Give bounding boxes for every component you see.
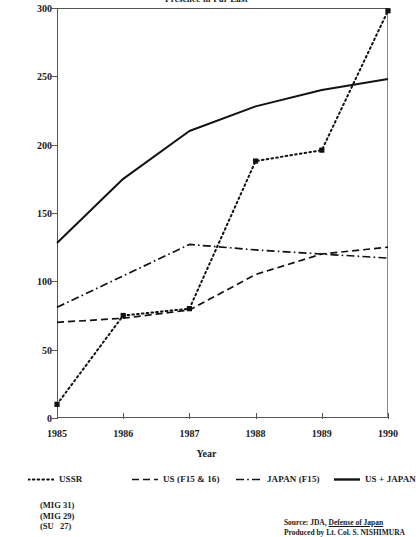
y-tick-label: 0 <box>6 413 52 424</box>
y-tick-label: 250 <box>6 71 52 82</box>
aircraft-annotation: (MIG 31)(MIG 29)(SU 27) <box>40 500 74 532</box>
chart-legend: USSRUS (F15 & 16)JAPAN (F15)US + JAPAN <box>28 474 398 490</box>
source-prefix: Source: JDA, <box>284 518 329 527</box>
x-tick-label: 1986 <box>113 428 133 439</box>
x-tick-label: 1988 <box>246 428 266 439</box>
x-tick-label: 1987 <box>179 428 199 439</box>
series-lines <box>57 8 388 418</box>
y-tick-label: 150 <box>6 208 52 219</box>
x-tick-label: 1990 <box>378 428 398 439</box>
legend-label: JAPAN (F15) <box>267 474 320 484</box>
y-tick-label: 300 <box>6 3 52 14</box>
x-tick-mark <box>322 413 323 419</box>
data-point-marker <box>319 148 324 153</box>
x-tick-mark <box>123 413 124 419</box>
legend-label: US (F15 & 16) <box>163 474 220 484</box>
source-line-1: Source: JDA, Defense of Japan <box>284 518 383 527</box>
series-line <box>57 79 388 243</box>
x-tick-mark <box>256 413 257 419</box>
legend-line-swatch <box>28 475 54 484</box>
x-tick-label: 1985 <box>47 428 67 439</box>
legend-item[interactable]: JAPAN (F15) <box>236 474 320 484</box>
legend-item[interactable]: US + JAPAN <box>334 474 416 484</box>
x-tick-mark <box>189 413 190 419</box>
x-tick-mark <box>388 413 389 419</box>
x-tick-label: 1989 <box>312 428 332 439</box>
x-axis: 198519861987198819891990 <box>57 418 388 446</box>
series-line <box>57 11 388 405</box>
chart-title: Presence in Far East <box>0 0 413 4</box>
legend-item[interactable]: USSR <box>28 474 82 484</box>
data-point-marker <box>54 402 59 407</box>
legend-item[interactable]: US (F15 & 16) <box>132 474 220 484</box>
legend-label: US + JAPAN <box>365 474 416 484</box>
plot-area <box>57 8 388 418</box>
series-line <box>57 244 388 307</box>
source-publication: Defense of Japan <box>329 518 384 527</box>
y-tick-label: 50 <box>6 344 52 355</box>
x-axis-label: Year <box>0 448 413 459</box>
y-tick-label: 100 <box>6 276 52 287</box>
source-attribution: Source: JDA, Defense of Japan Produced b… <box>284 518 405 537</box>
x-tick-mark <box>57 413 58 419</box>
data-point-marker <box>385 8 390 13</box>
legend-line-swatch <box>132 475 158 484</box>
y-axis: 050100150200250300 <box>0 8 52 418</box>
legend-line-swatch <box>236 475 262 484</box>
source-line-2: Produced by Lt. Col. S. NISHIMURA <box>284 528 405 537</box>
data-point-marker <box>253 158 258 163</box>
legend-line-swatch <box>334 475 360 484</box>
series-line <box>57 247 388 322</box>
aircraft-note-line: (MIG 29) <box>40 511 74 522</box>
y-tick-label: 200 <box>6 139 52 150</box>
aircraft-note-line: (SU 27) <box>40 521 74 532</box>
legend-label: USSR <box>59 474 82 484</box>
aircraft-note-line: (MIG 31) <box>40 500 74 511</box>
